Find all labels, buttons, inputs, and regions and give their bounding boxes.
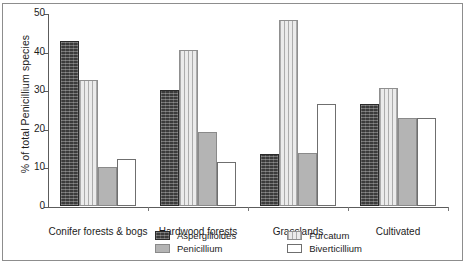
bar <box>279 20 298 206</box>
bar-group <box>360 13 436 206</box>
y-tick-label: 40 <box>34 46 45 57</box>
legend-item: Penicillium <box>155 243 259 254</box>
bar <box>379 88 398 206</box>
plot-area: 01020304050 Conifer forests & bogsHardwo… <box>48 14 448 207</box>
chart-figure: % of total Penicillium species 010203040… <box>0 0 467 265</box>
legend-label: Penicillium <box>177 243 222 254</box>
bar <box>417 118 436 206</box>
chart-legend: AspergilloidesFurcatumPenicilliumBiverti… <box>155 230 385 254</box>
bar-group <box>260 13 336 206</box>
x-tick-mark <box>248 207 249 211</box>
legend-swatch-icon <box>287 231 302 240</box>
y-axis-label: % of total Penicillium species <box>19 9 31 199</box>
bar <box>398 118 417 206</box>
bar <box>60 41 79 206</box>
bar <box>298 153 317 206</box>
y-tick-label: 50 <box>34 7 45 18</box>
category-label: Conifer forests & bogs <box>49 226 148 237</box>
bar <box>217 162 236 206</box>
legend-label: Biverticillium <box>309 243 362 254</box>
bar <box>98 167 117 206</box>
bar <box>360 104 379 206</box>
legend-item: Furcatum <box>287 230 385 241</box>
y-tick-label: 10 <box>34 161 45 172</box>
x-tick-mark <box>148 207 149 211</box>
bar <box>198 132 217 206</box>
bar <box>160 90 179 206</box>
bar <box>117 159 136 206</box>
legend-label: Aspergilloides <box>177 230 236 241</box>
y-tick-label: 30 <box>34 84 45 95</box>
bar-group <box>160 13 236 206</box>
legend-label: Furcatum <box>309 230 349 241</box>
legend-swatch-icon <box>287 244 302 253</box>
bar <box>317 104 336 206</box>
bar <box>260 154 279 206</box>
bar <box>79 80 98 206</box>
legend-item: Biverticillium <box>287 243 385 254</box>
legend-item: Aspergilloides <box>155 230 259 241</box>
bar-group <box>60 13 136 206</box>
y-axis-line <box>48 14 49 208</box>
bar <box>179 50 198 206</box>
legend-swatch-icon <box>155 231 170 240</box>
x-tick-mark <box>448 207 449 211</box>
legend-swatch-icon <box>155 244 170 253</box>
y-tick-label: 0 <box>39 200 45 211</box>
y-tick-label: 20 <box>34 123 45 134</box>
x-tick-mark <box>348 207 349 211</box>
